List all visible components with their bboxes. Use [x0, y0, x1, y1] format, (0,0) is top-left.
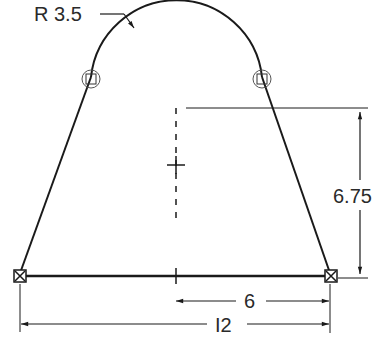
radius-dimension[interactable]: R 3.5 — [34, 3, 134, 28]
vertex-marker-right[interactable] — [325, 270, 337, 282]
width-dimension[interactable]: I2 — [20, 284, 329, 336]
width-value[interactable]: I2 — [215, 314, 232, 336]
height-dimension[interactable]: 6.75 — [186, 108, 372, 278]
half-width-dimension[interactable]: 6 — [176, 284, 330, 333]
top-arc[interactable] — [91, 0, 262, 77]
arc-center-cross[interactable] — [167, 156, 185, 174]
left-side-line[interactable] — [19, 77, 91, 276]
right-side-line[interactable] — [262, 77, 331, 276]
half-width-value[interactable]: 6 — [244, 290, 255, 312]
height-value[interactable]: 6.75 — [333, 185, 372, 207]
radius-value[interactable]: R 3.5 — [34, 3, 82, 25]
vertex-marker-left[interactable] — [14, 270, 26, 282]
sketch-drawing: R 3.5 6.75 6 I2 — [0, 0, 388, 346]
